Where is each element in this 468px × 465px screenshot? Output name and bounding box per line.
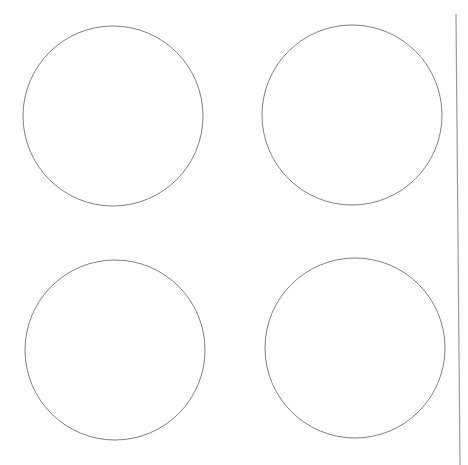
canvas-background <box>0 0 468 465</box>
drawing-canvas <box>0 0 468 465</box>
